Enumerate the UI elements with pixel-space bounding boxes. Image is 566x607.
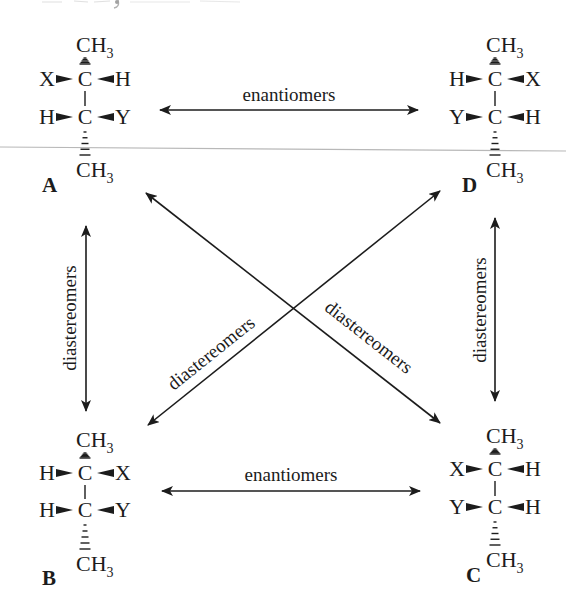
methyl-bottom: CH3 <box>486 157 524 186</box>
molecule-label: B <box>42 566 56 590</box>
carbon-atom: C <box>78 66 93 91</box>
wedge-bond-left <box>466 503 483 511</box>
relationship-label: diastereomers <box>469 257 490 363</box>
molecule-C: CH3CH3CXHCYHC <box>449 423 541 587</box>
relationship-label: diastereomers <box>163 312 258 394</box>
molecule-label: C <box>466 563 481 587</box>
arrow-A-D: enantiomers <box>160 84 418 110</box>
hashed-bond-bottom <box>490 132 501 155</box>
substituent-right: H <box>115 66 131 91</box>
wedge-bond-left <box>56 469 73 477</box>
relationship-label: diastereomers <box>321 296 417 378</box>
wedge-bond-right <box>97 506 114 514</box>
molecule-B: CH3CH3CHXCHYB <box>39 427 131 590</box>
substituent-right: Y <box>115 497 131 522</box>
wedge-bond-right <box>97 113 114 121</box>
double-arrow-icon <box>146 193 440 423</box>
methyl-top: CH3 <box>486 423 524 452</box>
carbon-atom: C <box>488 494 503 519</box>
stereoisomer-diagram: CH3CH3CXHCHYA CH3CH3CHXCYHD CH3CH3CHXCHY… <box>0 0 566 607</box>
hashed-bond-top <box>490 449 501 454</box>
hashed-bond-top <box>80 453 91 458</box>
carbon-atom: C <box>78 460 93 485</box>
arrow-A-B: diastereomers <box>59 226 86 411</box>
molecule-label: A <box>42 173 58 197</box>
substituent-left: H <box>39 460 55 485</box>
arrow-D-C: diastereomers <box>469 218 495 401</box>
wedge-bond-left <box>466 75 483 83</box>
wedge-bond-left <box>56 113 73 121</box>
wedge-bond-left <box>56 75 73 83</box>
methyl-bottom: CH3 <box>486 547 524 576</box>
carbon-atom: C <box>488 66 503 91</box>
arrow-B-C: enantiomers <box>162 464 420 491</box>
arrow-A-C: diastereomers <box>146 193 440 423</box>
substituent-right: Y <box>115 104 131 129</box>
methyl-top: CH3 <box>76 427 114 456</box>
substituent-right: X <box>525 66 541 91</box>
methyl-top: CH3 <box>486 32 524 61</box>
wedge-bond-right <box>507 503 524 511</box>
carbon-atom: C <box>78 104 93 129</box>
substituent-left: X <box>449 456 465 481</box>
methyl-top: CH3 <box>76 32 114 61</box>
substituent-right: H <box>525 104 541 129</box>
substituent-right: X <box>115 460 131 485</box>
relationship-label: diastereomers <box>59 265 80 371</box>
hashed-bond-bottom <box>80 525 91 549</box>
relationship-label: enantiomers <box>243 84 336 105</box>
hashed-bond-top <box>80 58 91 64</box>
wedge-bond-right <box>97 469 114 477</box>
carbon-atom: C <box>488 456 503 481</box>
molecule-D: CH3CH3CHXCYHD <box>449 32 541 197</box>
wedge-bond-left <box>466 465 483 473</box>
substituent-right: H <box>525 494 541 519</box>
molecule-A: CH3CH3CXHCHYA <box>39 32 131 197</box>
relationship-label: enantiomers <box>245 464 338 485</box>
wedge-bond-left <box>56 506 73 514</box>
wedge-bond-right <box>507 465 524 473</box>
substituent-left: X <box>39 66 55 91</box>
hashed-bond-bottom <box>490 522 501 545</box>
methyl-bottom: CH3 <box>76 157 114 186</box>
hashed-bond-bottom <box>80 132 91 155</box>
substituent-left: H <box>39 104 55 129</box>
carbon-atom: C <box>78 497 93 522</box>
substituent-left: H <box>39 497 55 522</box>
wedge-bond-left <box>466 113 483 121</box>
hashed-bond-top <box>490 58 501 64</box>
carbon-atom: C <box>488 104 503 129</box>
methyl-bottom: CH3 <box>76 551 114 580</box>
substituent-left: Y <box>449 494 465 519</box>
wedge-bond-right <box>97 75 114 83</box>
substituent-left: Y <box>449 104 465 129</box>
wedge-bond-right <box>507 113 524 121</box>
wedge-bond-right <box>507 75 524 83</box>
clipped-text-fragment <box>42 0 240 8</box>
molecule-label: D <box>462 173 477 197</box>
substituent-right: H <box>525 456 541 481</box>
substituent-left: H <box>449 66 465 91</box>
